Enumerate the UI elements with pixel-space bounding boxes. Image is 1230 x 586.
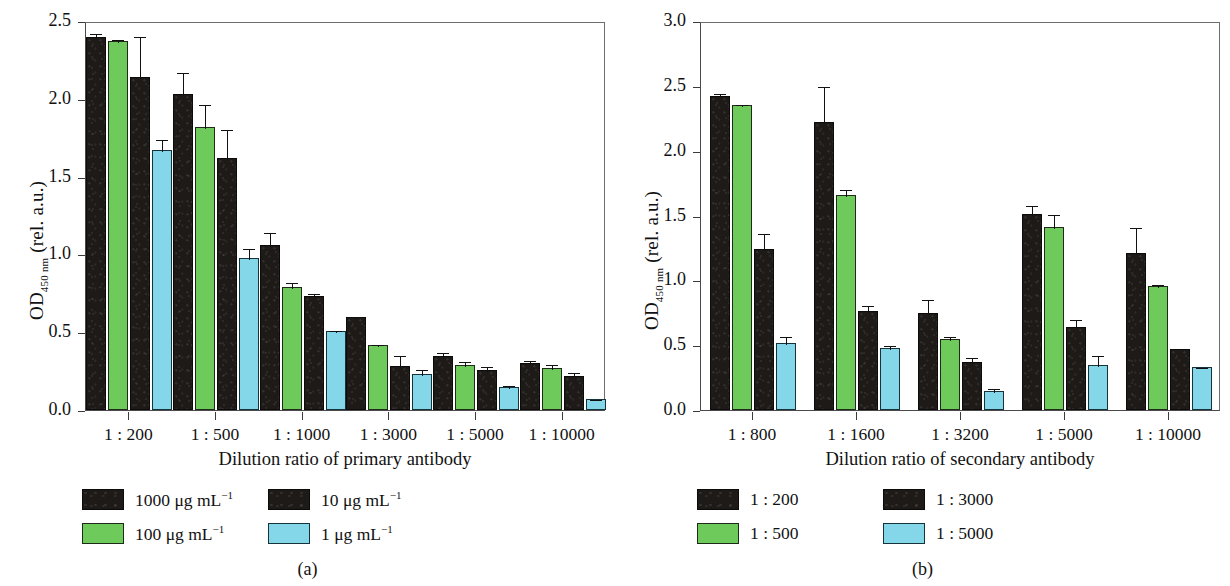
error-bar-cap xyxy=(350,317,362,318)
error-bar-cap xyxy=(714,94,726,95)
x-tick-mark xyxy=(1168,412,1169,420)
legend-item: 1 : 5000 xyxy=(883,523,993,544)
error-bar-cap xyxy=(437,353,449,354)
x-axis-title-a: Dilution ratio of primary antibody xyxy=(85,449,605,470)
plot-area-a xyxy=(85,22,605,411)
x-tick-label: 1 : 10000 xyxy=(492,424,632,445)
error-bar-cap xyxy=(308,294,320,295)
bar xyxy=(1088,365,1108,410)
error-bar xyxy=(786,337,787,345)
error-bar-cap xyxy=(840,190,852,191)
error-bar-cap xyxy=(330,331,342,332)
y-tick-mark xyxy=(693,22,700,23)
bar xyxy=(520,363,540,410)
error-bar-cap xyxy=(199,105,211,106)
error-bar-cap xyxy=(481,367,493,368)
legend-label: 1 : 5000 xyxy=(936,523,993,544)
y-tick-mark xyxy=(693,152,700,153)
error-bar-cap xyxy=(394,356,406,357)
y-tick-mark xyxy=(693,411,700,412)
y-tick-label: 3.0 xyxy=(620,10,686,31)
plot-area-b xyxy=(700,22,1220,411)
y-tick-mark xyxy=(693,346,700,347)
legend-item: 1 μg mL−1 xyxy=(268,523,393,545)
legend-swatch xyxy=(82,523,124,544)
error-bar-cap xyxy=(862,306,874,307)
x-tick-mark xyxy=(128,412,129,420)
y-tick-mark xyxy=(78,411,85,412)
legend-label-exponent: −1 xyxy=(212,523,224,535)
error-bar-cap xyxy=(112,40,124,41)
legend-swatch xyxy=(697,489,739,510)
bar xyxy=(940,339,960,410)
y-tick-mark xyxy=(693,87,700,88)
bar xyxy=(152,150,172,410)
legend-label: 1 : 3000 xyxy=(936,489,993,510)
x-axis-title-b: Dilution ratio of secondary antibody xyxy=(700,449,1220,470)
error-bar xyxy=(868,306,869,314)
error-bar-cap xyxy=(590,400,602,401)
error-bar-cap xyxy=(286,283,298,284)
bar xyxy=(108,41,128,410)
error-bar xyxy=(1054,215,1055,229)
y-tick-mark xyxy=(78,22,85,23)
panel-b: OD450 nm (rel. a.u.) 0.00.51.01.52.02.53… xyxy=(615,0,1230,586)
error-bar-cap xyxy=(922,300,934,301)
legend-swatch xyxy=(697,523,739,544)
error-bar-cap xyxy=(758,234,770,235)
bar xyxy=(754,249,774,410)
x-tick-mark xyxy=(1064,412,1065,420)
legend-label-exponent: −1 xyxy=(381,523,393,535)
error-bar xyxy=(928,300,929,314)
y-tick-mark xyxy=(78,178,85,179)
bar xyxy=(1148,286,1168,410)
error-bar xyxy=(249,249,250,260)
bar xyxy=(260,245,280,410)
y-tick-label: 2.5 xyxy=(620,75,686,96)
bars-container-a xyxy=(86,23,604,410)
legend-item: 10 μg mL−1 xyxy=(268,489,401,511)
error-bar xyxy=(1098,356,1099,366)
bar xyxy=(346,317,366,410)
y-tick-label: 0.0 xyxy=(5,399,71,420)
error-bar xyxy=(270,233,271,247)
error-bar-cap xyxy=(221,130,233,131)
bar xyxy=(455,365,475,410)
legend-item: 100 μg mL−1 xyxy=(82,523,224,545)
bar xyxy=(368,345,388,410)
y-tick-label: 0.5 xyxy=(5,321,71,342)
bar xyxy=(1044,227,1064,410)
bar xyxy=(1192,367,1212,410)
error-bar xyxy=(400,356,401,368)
error-bar-cap xyxy=(459,362,471,363)
bar xyxy=(499,387,519,410)
error-bar-cap xyxy=(1026,206,1038,207)
error-bar-cap xyxy=(243,249,255,250)
legend-swatch xyxy=(268,489,310,510)
bar xyxy=(962,362,982,410)
error-bar xyxy=(162,140,163,152)
error-bar-cap xyxy=(156,140,168,141)
bar xyxy=(732,105,752,410)
error-bar xyxy=(824,87,825,125)
error-bar-cap xyxy=(1196,368,1208,369)
error-bar xyxy=(227,130,228,160)
y-tick-label: 1.5 xyxy=(5,166,71,187)
bar xyxy=(239,258,259,410)
legend-label: 1 : 200 xyxy=(750,489,799,510)
legend-item: 1 : 500 xyxy=(697,523,799,544)
error-bar-cap xyxy=(177,73,189,74)
legend-item: 1 : 3000 xyxy=(883,489,993,510)
y-tick-mark xyxy=(78,333,85,334)
error-bar xyxy=(183,73,184,96)
figure-two-panel-bar-chart: OD450 nm (rel. a.u.) 0.00.51.01.52.02.5 … xyxy=(0,0,1230,586)
bar xyxy=(836,195,856,410)
y-tick-label: 2.0 xyxy=(620,140,686,161)
error-bar-cap xyxy=(884,346,896,347)
bar xyxy=(1170,349,1190,410)
error-bar-cap xyxy=(372,345,384,346)
x-tick-mark xyxy=(388,412,389,420)
error-bar-cap xyxy=(134,37,146,38)
bar xyxy=(984,391,1004,410)
x-tick-mark xyxy=(475,412,476,420)
